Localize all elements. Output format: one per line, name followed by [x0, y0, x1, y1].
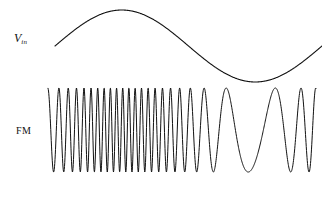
modulating-signal-label: Vin [14, 32, 27, 46]
modulating-sine-curve [55, 10, 322, 82]
waveform-canvas [0, 0, 322, 198]
fm-signal-label: FM [16, 126, 31, 136]
fm-carrier-curve [48, 88, 316, 172]
fm-waveform-figure: Vin FM [0, 0, 322, 198]
vin-label-subscript: in [21, 38, 27, 46]
